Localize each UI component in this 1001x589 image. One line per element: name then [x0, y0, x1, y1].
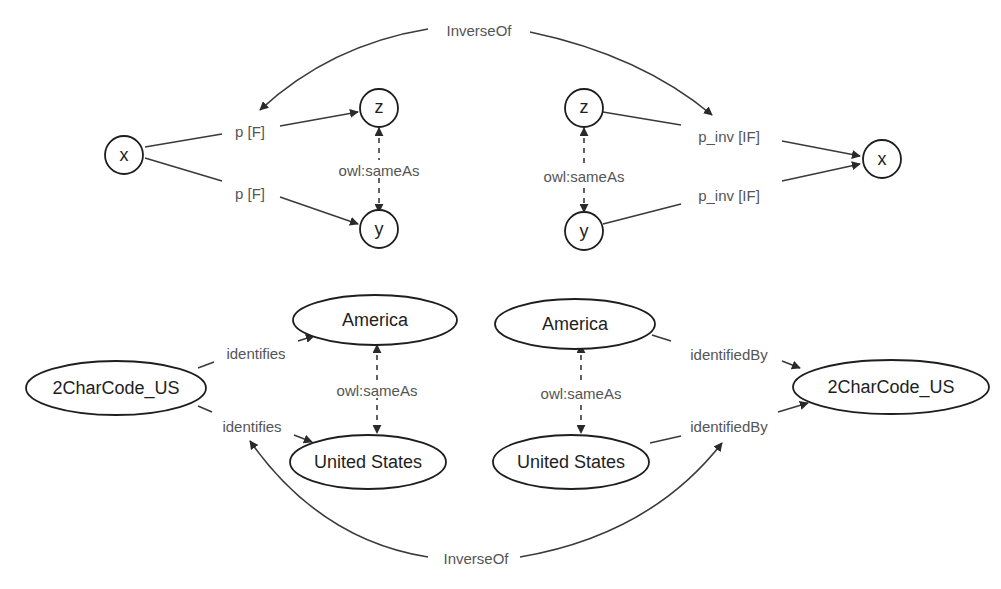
node-united-states-right[interactable]: United States — [493, 435, 649, 489]
owl-inverse-functional-diagram: InverseOf p [F] p [F] owl:sameAs x z y p… — [0, 0, 1001, 589]
top-right-graph: p_inv [IF] p_inv [IF] owl:sameAs z y x — [535, 89, 901, 250]
edge-z-to-x-part1 — [603, 112, 681, 125]
edge-label-x-to-z: p [F] — [235, 123, 265, 140]
svg-text:2CharCode_US: 2CharCode_US — [827, 377, 954, 398]
top-inverse-of-edge: InverseOf — [260, 22, 712, 116]
edge-x-to-y-part1 — [145, 158, 222, 181]
edge-label-us-to-code: identifiedBy — [690, 418, 768, 435]
edge-z-to-x-part2 — [782, 141, 860, 156]
node-x[interactable]: x — [105, 136, 143, 174]
top-left-graph: p [F] p [F] owl:sameAs x z y — [105, 89, 428, 248]
bottom-left-graph: identifies identifies owl:sameAs 2CharCo… — [26, 295, 457, 489]
node-y-right[interactable]: y — [565, 212, 603, 250]
svg-text:y: y — [375, 219, 384, 239]
edge-label-sameas-bottom-left: owl:sameAs — [337, 382, 418, 399]
node-y[interactable]: y — [360, 210, 398, 248]
edge-code-to-us-part1 — [198, 406, 212, 412]
svg-text:2CharCode_US: 2CharCode_US — [52, 378, 179, 399]
node-united-states[interactable]: United States — [290, 435, 446, 489]
edge-us-to-code-part1 — [650, 436, 681, 443]
edge-code-to-us-part2 — [294, 435, 312, 442]
edge-x-to-z-part2 — [280, 112, 358, 126]
node-x-right[interactable]: x — [863, 140, 901, 178]
svg-text:z: z — [580, 97, 589, 117]
edge-label-sameas-right: owl:sameAs — [544, 168, 625, 185]
edge-us-to-code-part2 — [778, 403, 808, 412]
top-inverse-of-label: InverseOf — [446, 22, 512, 39]
bottom-inverse-of-label: InverseOf — [443, 550, 509, 567]
edge-code-to-america-part1 — [198, 362, 214, 368]
edge-label-america-to-code: identifiedBy — [690, 346, 768, 363]
node-2charcode-us[interactable]: 2CharCode_US — [26, 361, 206, 415]
svg-text:America: America — [342, 310, 409, 330]
edge-label-y-to-x: p_inv [IF] — [698, 187, 760, 204]
edge-label-x-to-y: p [F] — [235, 185, 265, 202]
node-z[interactable]: z — [360, 89, 398, 127]
node-z-right[interactable]: z — [565, 89, 603, 127]
svg-text:America: America — [542, 314, 609, 334]
edge-america-to-code-part2 — [782, 361, 800, 368]
edge-label-code-to-us: identifies — [222, 418, 281, 435]
svg-text:y: y — [580, 221, 589, 241]
node-america[interactable]: America — [293, 295, 457, 345]
node-america-right[interactable]: America — [495, 299, 655, 349]
edge-y-to-x-part2 — [782, 164, 860, 181]
edge-label-code-to-america: identifies — [226, 345, 285, 362]
svg-text:x: x — [120, 145, 129, 165]
top-inverse-arc-right — [530, 32, 712, 115]
edge-label-z-to-x: p_inv [IF] — [698, 128, 760, 145]
node-2charcode-us-right[interactable]: 2CharCode_US — [793, 360, 989, 414]
edge-y-to-x-part1 — [603, 204, 681, 224]
top-inverse-arc-left — [260, 29, 428, 110]
svg-text:z: z — [375, 97, 384, 117]
svg-text:United States: United States — [517, 452, 625, 472]
edge-label-sameas: owl:sameAs — [339, 162, 420, 179]
edge-america-to-code-part1 — [652, 335, 671, 341]
edge-label-sameas-bottom-right: owl:sameAs — [541, 385, 622, 402]
edge-x-to-y-part2 — [280, 197, 358, 224]
bottom-right-graph: identifiedBy identifiedBy owl:sameAs Ame… — [493, 299, 989, 489]
edge-x-to-z-part1 — [145, 134, 222, 147]
svg-text:United States: United States — [314, 452, 422, 472]
svg-text:x: x — [878, 149, 887, 169]
